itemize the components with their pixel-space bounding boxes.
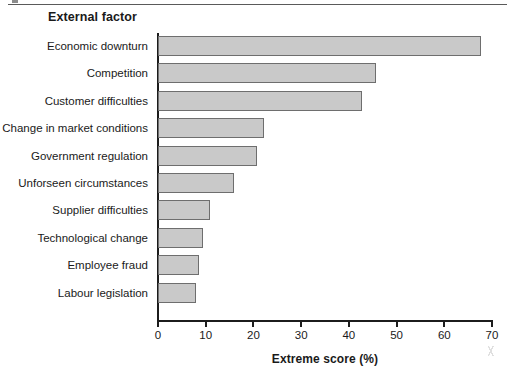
category-label: Customer difficulties	[0, 95, 148, 107]
bar-fill	[158, 255, 199, 275]
bar-fill	[158, 283, 196, 303]
bar	[158, 173, 234, 193]
category-label: Government regulation	[0, 150, 148, 162]
x-axis-tick-label: 30	[286, 329, 316, 341]
x-axis-tick-label: 10	[191, 329, 221, 341]
x-axis-tick	[396, 321, 398, 327]
x-axis-tick-label: 20	[238, 329, 268, 341]
x-axis-tick-label: 40	[334, 329, 364, 341]
bar	[158, 118, 264, 138]
x-axis-tick-label: 70	[477, 329, 507, 341]
header-divider-tick	[12, 0, 18, 3]
bar-fill	[158, 63, 376, 83]
bar	[158, 228, 203, 248]
bar-fill	[158, 118, 264, 138]
bar	[158, 36, 481, 56]
bar-fill	[158, 173, 234, 193]
chart-title: External factor	[48, 10, 137, 24]
category-label: Employee fraud	[0, 259, 148, 271]
x-axis-tick	[443, 321, 445, 327]
chart-figure: External factor Economic downturnCompeti…	[0, 0, 515, 380]
bar-fill	[158, 146, 257, 166]
x-axis-tick	[300, 321, 302, 327]
bar-fill	[158, 200, 210, 220]
bar	[158, 283, 196, 303]
x-axis-tick-label: 50	[382, 329, 412, 341]
bar-fill	[158, 91, 362, 111]
category-label: Supplier difficulties	[0, 204, 148, 216]
bar	[158, 255, 199, 275]
category-label: Labour legislation	[0, 287, 148, 299]
x-axis-tick-label: 0	[143, 329, 173, 341]
x-axis-tick	[348, 321, 350, 327]
category-label: Unforseen circumstances	[0, 177, 148, 189]
bar	[158, 200, 210, 220]
bar-fill	[158, 228, 203, 248]
header-divider	[8, 4, 507, 5]
bar	[158, 146, 257, 166]
x-axis-tick-label: 60	[429, 329, 459, 341]
x-axis-title: Extreme score (%)	[158, 352, 492, 366]
category-label: Change in market conditions	[0, 122, 148, 134]
x-axis-tick	[157, 321, 159, 327]
scan-artifact	[483, 346, 499, 356]
x-axis-tick	[205, 321, 207, 327]
bar	[158, 63, 376, 83]
category-label: Economic downturn	[0, 40, 148, 52]
x-axis-tick	[491, 321, 493, 327]
category-label: Technological change	[0, 232, 148, 244]
bar	[158, 91, 362, 111]
x-axis-tick	[252, 321, 254, 327]
bar-fill	[158, 36, 481, 56]
category-label: Competition	[0, 67, 148, 79]
